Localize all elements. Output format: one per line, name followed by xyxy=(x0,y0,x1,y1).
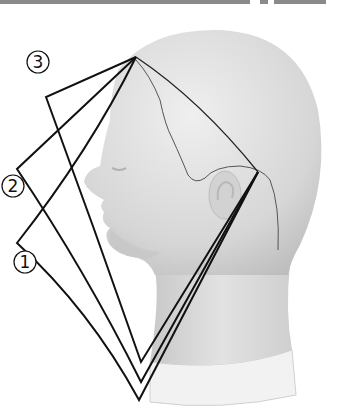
head-diagram: 3 2 1 xyxy=(0,0,342,409)
label-3: 3 xyxy=(27,51,49,73)
label-2-text: 2 xyxy=(8,176,19,196)
label-3-text: 3 xyxy=(33,52,44,72)
label-1: 1 xyxy=(14,251,36,273)
label-1-text: 1 xyxy=(20,252,31,272)
label-2: 2 xyxy=(2,175,24,197)
neck xyxy=(150,265,292,365)
